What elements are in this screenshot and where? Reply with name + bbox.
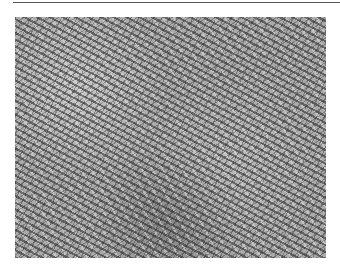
histology-micrograph xyxy=(15,17,326,258)
top-rule xyxy=(13,2,340,3)
